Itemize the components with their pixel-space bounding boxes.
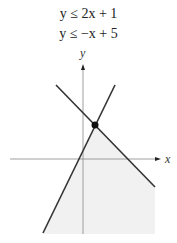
intersection-point: [92, 122, 99, 129]
shaded-solution-region: [43, 125, 155, 234]
coordinate-graph: x y: [0, 0, 177, 243]
y-axis-arrow-icon: [81, 64, 85, 70]
x-axis-arrow-icon: [155, 157, 161, 161]
y-axis-label: y: [79, 46, 86, 60]
x-axis-label: x: [164, 152, 171, 166]
